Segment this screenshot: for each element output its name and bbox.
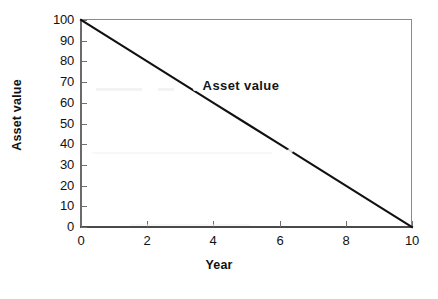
x-axis-tick — [81, 221, 82, 227]
y-axis-tick — [81, 165, 87, 166]
scan-artifact-speck — [193, 87, 199, 91]
scan-artifact-smudge — [158, 88, 174, 91]
y-axis-tick-label: 60 — [40, 96, 74, 109]
series-annotation-label: Asset value — [203, 78, 280, 93]
x-axis-tick-label: 8 — [326, 234, 366, 248]
y-axis-tick — [81, 41, 87, 42]
y-axis-tick — [81, 227, 87, 228]
x-axis-tick-label: 4 — [193, 234, 233, 248]
y-axis-tick — [81, 82, 87, 83]
x-axis-tick-label: 0 — [61, 234, 101, 248]
y-axis-tick-label: 50 — [40, 117, 74, 130]
y-axis-tick — [81, 61, 87, 62]
scan-artifact-smudge — [96, 88, 142, 91]
y-axis-tick-label: 20 — [40, 179, 74, 192]
y-axis-title: Asset value — [10, 60, 24, 170]
y-axis-tick — [81, 186, 87, 187]
x-axis-tick — [280, 221, 281, 227]
scan-artifact-smudge — [130, 224, 250, 226]
y-axis-tick-label: 10 — [40, 199, 74, 212]
y-axis-tick — [81, 20, 87, 21]
y-axis-tick — [81, 144, 87, 145]
chart-figure: 0102030405060708090100 0246810 Asset val… — [0, 0, 438, 299]
x-axis-tick — [412, 221, 413, 227]
y-axis-tick-label: 30 — [40, 158, 74, 171]
scan-artifact-speck — [287, 149, 293, 153]
y-axis-tick-labels: 0102030405060708090100 — [38, 0, 74, 299]
y-axis-tick — [81, 206, 87, 207]
y-axis-tick-label: 100 — [40, 13, 74, 26]
y-axis-tick — [81, 103, 87, 104]
y-axis-tick-label: 0 — [40, 220, 74, 233]
x-axis-tick — [346, 221, 347, 227]
x-axis-tick-label: 6 — [260, 234, 300, 248]
scan-artifact-smudge — [92, 152, 272, 154]
plot-area — [80, 19, 412, 227]
y-axis-tick — [81, 124, 87, 125]
x-axis-tick-label: 10 — [392, 234, 432, 248]
y-axis-tick-label: 80 — [40, 54, 74, 67]
y-axis-tick-label: 70 — [40, 75, 74, 88]
x-axis-title: Year — [0, 258, 438, 272]
y-axis-tick-label: 40 — [40, 137, 74, 150]
x-axis-line — [80, 226, 413, 228]
y-axis-tick-label: 90 — [40, 34, 74, 47]
x-axis-tick-label: 2 — [127, 234, 167, 248]
